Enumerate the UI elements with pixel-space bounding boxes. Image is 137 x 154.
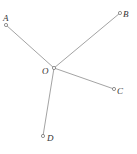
- segment-oa: [6, 25, 54, 68]
- point-a: [4, 23, 7, 26]
- segment-od: [43, 68, 54, 136]
- rays-from-point-o-diagram: OABCD: [0, 0, 137, 154]
- point-b: [118, 11, 121, 14]
- label-o: O: [42, 66, 49, 76]
- point-c: [112, 87, 115, 90]
- point-o: [52, 66, 55, 69]
- segment-oc: [54, 68, 114, 89]
- label-d: D: [46, 133, 54, 143]
- segment-ob: [54, 13, 120, 68]
- label-b: B: [123, 9, 129, 19]
- point-d: [41, 134, 44, 137]
- label-c: C: [117, 86, 124, 96]
- label-a: A: [2, 13, 9, 23]
